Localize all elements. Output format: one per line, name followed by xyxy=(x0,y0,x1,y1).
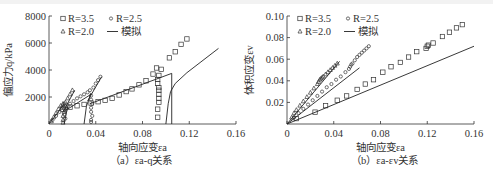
data-point-square xyxy=(154,66,158,70)
y-tick-label: 0.10 xyxy=(266,11,284,22)
y-tick-label: 0.04 xyxy=(266,75,285,86)
data-point-square xyxy=(415,49,419,53)
y-tick-label: 0.06 xyxy=(266,54,284,65)
data-point-square xyxy=(110,96,114,100)
chart-panel-a: 00.040.080.120.162000400060008000轴向应变εa偏… xyxy=(0,0,246,181)
data-point-square xyxy=(460,22,464,26)
data-point-square xyxy=(406,55,410,59)
legend-circle-icon xyxy=(109,17,112,20)
data-point-circle xyxy=(320,90,323,93)
x-tick-label: 0.12 xyxy=(418,128,436,139)
data-point-circle xyxy=(89,110,92,113)
data-point-circle xyxy=(72,99,75,102)
data-point-square xyxy=(389,65,393,69)
data-point-circle xyxy=(82,93,85,96)
legend-label: R=2.5 xyxy=(116,13,142,24)
legend-label: R=2.0 xyxy=(305,26,331,37)
data-point-square xyxy=(447,30,451,34)
legend-label: R=3.5 xyxy=(305,13,331,24)
data-point-circle xyxy=(367,45,370,48)
data-point-triangle xyxy=(66,96,70,100)
x-tick-label: 0 xyxy=(46,128,51,139)
legend-square-icon xyxy=(298,16,302,20)
data-point-square xyxy=(431,41,435,45)
simulation-line xyxy=(90,73,172,103)
y-tick-label: 0.02 xyxy=(266,97,284,108)
simulation-line xyxy=(166,48,219,124)
data-point-triangle xyxy=(312,86,316,90)
data-point-circle xyxy=(311,99,314,102)
data-point-circle xyxy=(330,82,333,85)
data-point-circle xyxy=(334,78,337,81)
simulation-line xyxy=(49,104,64,124)
x-tick-label: 0.12 xyxy=(180,128,198,139)
data-point-circle xyxy=(306,103,309,106)
x-tick-label: 0.08 xyxy=(133,128,151,139)
data-point-square xyxy=(159,67,163,71)
x-tick-label: 0.08 xyxy=(371,128,389,139)
data-point-square xyxy=(371,78,375,82)
y-tick-label: 8000 xyxy=(25,11,46,22)
data-point-circle xyxy=(325,86,328,89)
legend-square-icon xyxy=(61,16,65,20)
data-point-circle xyxy=(316,94,319,97)
data-point-square xyxy=(151,72,155,76)
data-point-circle xyxy=(89,106,92,109)
x-tick-label: 0.04 xyxy=(87,128,106,139)
chart-a-caption: （a）εa-q关系 xyxy=(110,152,172,167)
data-point-circle xyxy=(75,97,78,100)
data-point-triangle xyxy=(68,92,72,96)
x-tick-label: 0.16 xyxy=(465,128,483,139)
x-tick-label: 0.04 xyxy=(325,128,344,139)
data-point-triangle xyxy=(308,90,312,94)
y-tick-label: 0.08 xyxy=(266,32,284,43)
legend-triangle-icon xyxy=(298,29,302,33)
data-point-square xyxy=(344,94,348,98)
data-point-circle xyxy=(88,89,91,92)
simulation-line xyxy=(287,46,474,124)
data-point-square xyxy=(363,82,367,86)
data-point-square xyxy=(173,50,177,54)
data-point-square xyxy=(82,102,86,106)
legend-circle-icon xyxy=(346,17,349,20)
data-point-square xyxy=(454,26,458,30)
data-point-square xyxy=(398,60,402,64)
legend-label: 模拟 xyxy=(358,25,379,37)
data-point-square xyxy=(155,115,159,119)
legend-label: R=2.0 xyxy=(68,26,94,37)
data-point-circle xyxy=(91,114,94,117)
legend-triangle-icon xyxy=(61,29,65,33)
legend-label: 模拟 xyxy=(121,25,142,37)
data-point-square xyxy=(179,42,183,46)
data-point-circle xyxy=(339,75,342,78)
chart-panel-b: 00.040.080.120.160.020.040.060.080.10轴向应… xyxy=(243,0,489,181)
data-point-square xyxy=(155,107,159,111)
data-point-circle xyxy=(344,71,347,74)
chart-b-caption: （b）εa-εv关系 xyxy=(351,152,418,167)
data-point-square xyxy=(185,37,189,41)
data-point-triangle xyxy=(305,95,309,99)
y-axis-title: 偏应力q/kPa xyxy=(2,43,14,97)
y-axis-title: 体积应变εv xyxy=(243,44,255,94)
data-point-square xyxy=(355,87,359,91)
data-point-square xyxy=(440,34,444,38)
data-point-square xyxy=(167,56,171,60)
x-tick-label: 0 xyxy=(284,128,289,139)
legend-label: R=2.5 xyxy=(353,13,379,24)
legend-label: R=3.5 xyxy=(68,13,94,24)
y-tick-label: 4000 xyxy=(25,65,46,76)
data-point-circle xyxy=(79,95,82,98)
y-tick-label: 6000 xyxy=(25,38,46,49)
data-point-square xyxy=(381,70,385,74)
data-point-square xyxy=(335,98,339,102)
data-point-circle xyxy=(353,59,356,62)
data-point-circle xyxy=(89,120,92,123)
y-tick-label: 2000 xyxy=(25,92,46,103)
